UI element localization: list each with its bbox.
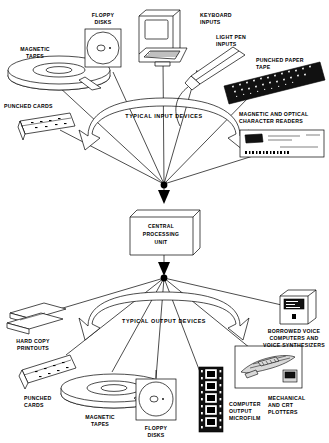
floppy-disk-icon xyxy=(85,29,121,67)
voice-box-icon xyxy=(280,290,316,324)
microfilm-strip-icon xyxy=(199,367,223,432)
cpu-label-line3: UNIT xyxy=(155,239,168,245)
sprocket-holes-left xyxy=(201,370,203,428)
cpu-label-line2: PROCESSING xyxy=(143,231,179,237)
paper-tape-icon xyxy=(224,62,325,104)
line-plotters xyxy=(164,278,250,348)
input-punched-cards-label: PUNCHED CARDS xyxy=(4,103,53,109)
output-voice-synthesizer: BORROWED VOICE COMPUTERS AND VOICE SYNTH… xyxy=(263,290,325,348)
output-microfilm-label-2: OUTPUT xyxy=(229,408,252,414)
cpu-to-output xyxy=(158,255,170,281)
output-voice-label-3: VOICE SYNTHESIZERS xyxy=(263,342,325,348)
line-punched-cards xyxy=(60,130,164,184)
sprocket-holes-right xyxy=(220,370,222,428)
output-banner: TYPICAL OUTPUT DEVICES xyxy=(79,292,249,340)
output-voice-label-1: BORROWED VOICE xyxy=(268,328,321,334)
line-floppy-disks xyxy=(113,72,164,184)
output-punched-cards-label-2: CARDS xyxy=(24,402,44,408)
output-plotters-label-2: AND CRT xyxy=(268,402,294,408)
printout-sheets-icon xyxy=(7,303,66,334)
output-hard-copy-printouts: HARD COPY PRINTOUTS xyxy=(7,303,66,351)
line-punched-cards-out xyxy=(66,278,164,355)
terminal-icon xyxy=(139,10,187,66)
input-keyboard-label-2: INPUTS xyxy=(200,19,221,25)
cpu-box: CENTRAL PROCESSING UNIT xyxy=(130,210,200,255)
floppy-disk-icon xyxy=(136,379,176,420)
output-punched-cards-label-1: PUNCHED xyxy=(24,395,51,401)
device-flow-diagram: TYPICAL INPUT DEVICES CENTRAL PROCESSING… xyxy=(0,0,329,443)
output-floppy-disks-label-2: DISKS xyxy=(147,432,164,438)
hub-to-cpu-arrow xyxy=(158,190,170,204)
output-plotters-label-3: PLOTTERS xyxy=(268,409,298,415)
output-microfilm-label-3: MICROFILM xyxy=(229,415,261,421)
output-floppy-disks: FLOPPY DISKS xyxy=(136,370,176,438)
input-magnetic-tapes-label-2: TAPES xyxy=(26,53,44,59)
diagram-canvas: TYPICAL INPUT DEVICES CENTRAL PROCESSING… xyxy=(0,0,329,443)
input-keyboard-label-1: KEYBOARD xyxy=(200,12,232,18)
input-mocr-label-1: MAGNETIC AND OPTICAL xyxy=(239,111,309,117)
line-keyboard-inputs xyxy=(163,60,164,184)
line-voice xyxy=(164,278,286,306)
output-floppy-disks-label-1: FLOPPY xyxy=(145,425,168,431)
input-floppy-disks: FLOPPY DISKS xyxy=(85,12,121,67)
output-voice-label-2: COMPUTERS AND xyxy=(270,335,319,341)
plotter-drawing-icon xyxy=(235,346,302,388)
input-punched-paper-tape: PUNCHED PAPER TAPE xyxy=(224,57,325,104)
input-light-pen-label-1: LIGHT PEN xyxy=(216,34,246,40)
output-banner-ribbon xyxy=(79,292,249,340)
input-banner-label: TYPICAL INPUT DEVICES xyxy=(125,113,202,119)
output-plotters-label-1: MECHANICAL xyxy=(268,395,306,401)
output-hard-copy-label-2: PRINTOUTS xyxy=(17,345,49,351)
cpu-label-line1: CENTRAL xyxy=(148,223,174,229)
output-magnetic-tapes-label-2: TAPES xyxy=(91,421,109,427)
output-microfilm-label-1: COMPUTER xyxy=(229,401,261,407)
cpu-to-output-arrow xyxy=(158,262,170,276)
input-magnetic-tapes-label-1: MAGNETIC xyxy=(20,46,50,52)
input-floppy-disks-label-1: FLOPPY xyxy=(92,12,115,18)
input-punched-paper-tape-label-1: PUNCHED PAPER xyxy=(256,57,304,63)
input-mocr: MAGNETIC AND OPTICAL CHARACTER READERS xyxy=(239,111,324,157)
input-mocr-label-2: CHARACTER READERS xyxy=(239,118,303,124)
check-document-icon xyxy=(240,130,324,157)
input-hub xyxy=(158,182,170,204)
input-light-pen-label-2: INPUTS xyxy=(216,41,237,47)
input-floppy-disks-label-2: DISKS xyxy=(94,19,111,25)
input-punched-paper-tape-label-2: TAPE xyxy=(256,64,271,70)
input-punched-cards: PUNCHED CARDS xyxy=(4,103,75,140)
punched-card-deck-icon xyxy=(18,113,75,140)
output-magnetic-tapes-label-1: MAGNETIC xyxy=(85,414,115,420)
output-banner-label: TYPICAL OUTPUT DEVICES xyxy=(122,318,206,324)
output-hard-copy-label-1: HARD COPY xyxy=(16,338,50,344)
